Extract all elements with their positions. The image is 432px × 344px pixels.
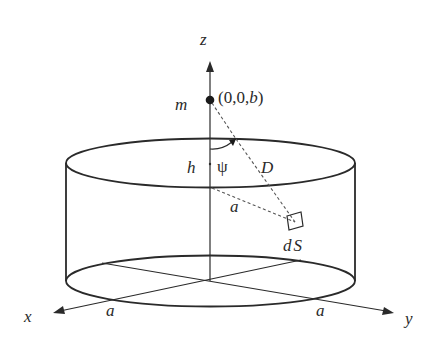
angle-psi-label: ψ (217, 157, 228, 176)
y-axis-label: y (403, 309, 413, 328)
coord-close: ) (258, 88, 264, 107)
height-mark-dot (209, 163, 211, 165)
height-label: h (187, 158, 196, 177)
coord-open: (0,0, (218, 88, 249, 107)
surface-element-label: dS (283, 236, 303, 255)
radius-x-label: a (106, 301, 115, 320)
coord-b: b (249, 88, 258, 107)
z-axis-arrowhead-icon (206, 61, 214, 72)
x-axis-arrowhead-icon (53, 306, 65, 314)
dashed-line-mass-to-rim (212, 103, 236, 139)
angle-arrowhead-icon (229, 139, 236, 146)
inner-radius-a-label: a (230, 197, 239, 216)
x-axis-label: x (23, 307, 32, 326)
point-mass-dot (206, 96, 215, 105)
z-axis-label: z (199, 30, 207, 49)
angle-psi-arc (210, 142, 232, 149)
mass-label: m (175, 95, 187, 114)
distance-D-label: D (260, 158, 274, 177)
surface-element-dS (287, 212, 303, 230)
dashed-line-radius-a (212, 188, 295, 222)
point-coordinates: (0,0,b) (218, 88, 263, 107)
cylinder-diagram: z x y m (0,0,b) h ψ D a dS a a (0, 0, 432, 344)
dS-d: d (283, 236, 292, 255)
x-axis-line (60, 260, 301, 311)
y-axis-arrowhead-icon (382, 307, 394, 315)
radius-y-label: a (316, 301, 325, 320)
dS-S: S (294, 236, 303, 255)
